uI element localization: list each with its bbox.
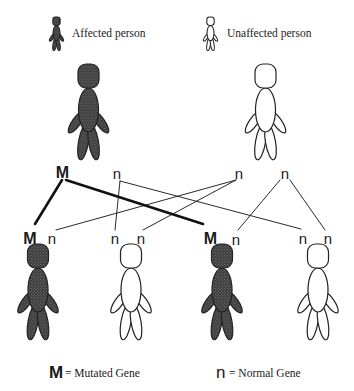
- parent1-gene-1: M: [56, 164, 69, 181]
- child-genes: M n n n M n n n: [23, 230, 332, 248]
- child2-gene-2: n: [137, 230, 145, 247]
- parent-affected-figure: [66, 64, 112, 161]
- parent-genes: M n n n: [56, 164, 289, 182]
- child3-gene-2: n: [232, 231, 240, 248]
- child4-gene-2: n: [324, 230, 332, 247]
- child3-affected-figure: [199, 244, 245, 341]
- line-n-parent2b-child3: [238, 180, 280, 230]
- parent2-gene-1: n: [235, 165, 243, 182]
- child1-gene-2: n: [48, 230, 56, 247]
- key-normal-symbol: n: [216, 363, 225, 382]
- key-mutated-label: = Mutated Gene: [65, 367, 140, 379]
- line-n-parent2a-child2: [143, 180, 236, 230]
- key-normal-label: = Normal Gene: [229, 367, 301, 379]
- child4-unaffected-figure: [295, 244, 341, 341]
- legend-unaffected-label: Unaffected person: [227, 27, 312, 40]
- parent-unaffected-figure: [243, 64, 289, 161]
- line-thick-M-child1: [35, 180, 62, 224]
- unaffected-person-icon: [202, 17, 218, 51]
- key-mutated-symbol: M: [49, 363, 63, 382]
- legend-affected-label: Affected person: [72, 27, 146, 40]
- parent1-gene-2: n: [113, 165, 121, 182]
- inheritance-lines: [35, 180, 325, 230]
- gene-key: M = Mutated Gene n = Normal Gene: [49, 363, 301, 382]
- child3-gene-1: M: [204, 230, 217, 247]
- line-thick-M-child3: [66, 180, 203, 224]
- affected-person-icon: [48, 17, 64, 51]
- line-n-parent1-child2: [115, 181, 120, 230]
- line-n-parent2b-child4: [290, 180, 325, 230]
- autosomal-dominant-inheritance-diagram: Affected person Unaffected person M n n …: [0, 0, 354, 391]
- child2-unaffected-figure: [108, 244, 154, 341]
- child1-affected-figure: [15, 244, 61, 341]
- legend: Affected person Unaffected person: [48, 17, 311, 51]
- child2-gene-1: n: [111, 230, 119, 247]
- child4-gene-1: n: [299, 230, 307, 247]
- parent2-gene-2: n: [281, 165, 289, 182]
